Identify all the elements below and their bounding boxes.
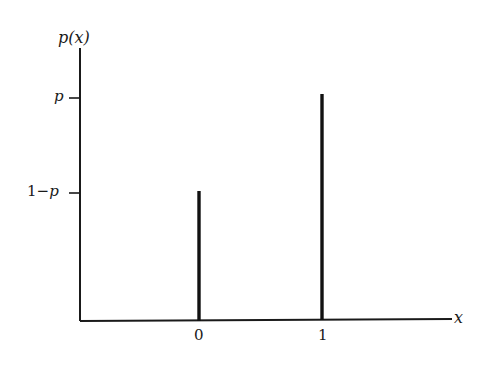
x-axis-label: x: [454, 310, 463, 326]
xtick-label-1: 1: [318, 328, 328, 343]
xtick-label-0: 0: [194, 328, 204, 343]
ytick-label-p: p: [54, 89, 64, 104]
ytick-label-1-minus-p: 1−p: [27, 184, 59, 199]
ytick-one: 1−: [27, 182, 49, 200]
y-axis-label: p(x): [58, 30, 90, 46]
pmf-chart: p(x) p 1−p 0 1 x: [0, 0, 484, 367]
x-axis: [80, 319, 452, 321]
chart-canvas: [0, 0, 484, 367]
ytick-p-part: p: [49, 182, 59, 200]
